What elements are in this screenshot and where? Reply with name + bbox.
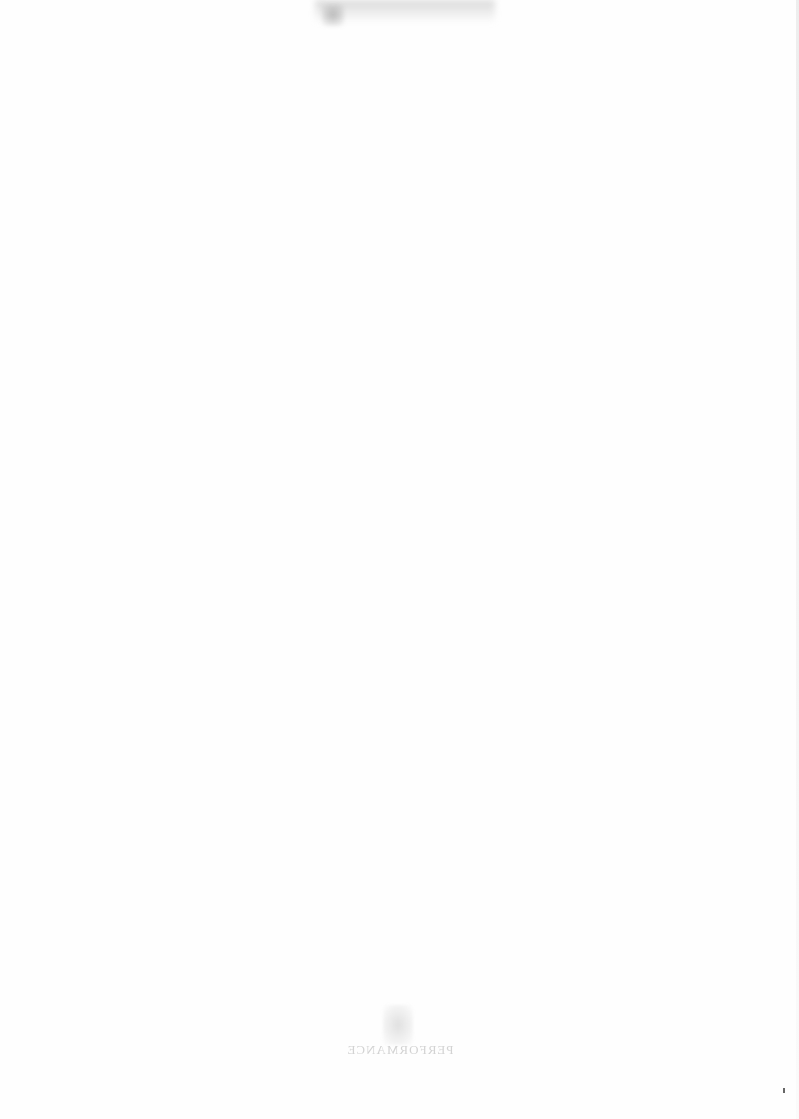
- blank-page: PERFORMANCE: [0, 0, 799, 1119]
- scan-speck: [783, 1088, 785, 1093]
- bleed-through-footer-text: PERFORMANCE: [255, 1042, 545, 1058]
- scan-spot: [322, 4, 344, 26]
- bleed-through-page-number: [383, 1005, 413, 1045]
